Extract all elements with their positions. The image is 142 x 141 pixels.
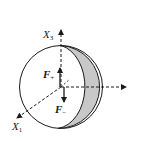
x1-label: X1	[11, 120, 23, 134]
force-plus-label-sub: +	[50, 74, 54, 82]
x3-label-sub: 3	[50, 34, 54, 42]
x1-label-sub: 1	[19, 126, 23, 134]
force-minus-label-sub: −	[62, 109, 66, 117]
sphere-diagram: X3 X1 F+ F−	[0, 0, 142, 141]
x3-label: X3	[42, 28, 54, 42]
